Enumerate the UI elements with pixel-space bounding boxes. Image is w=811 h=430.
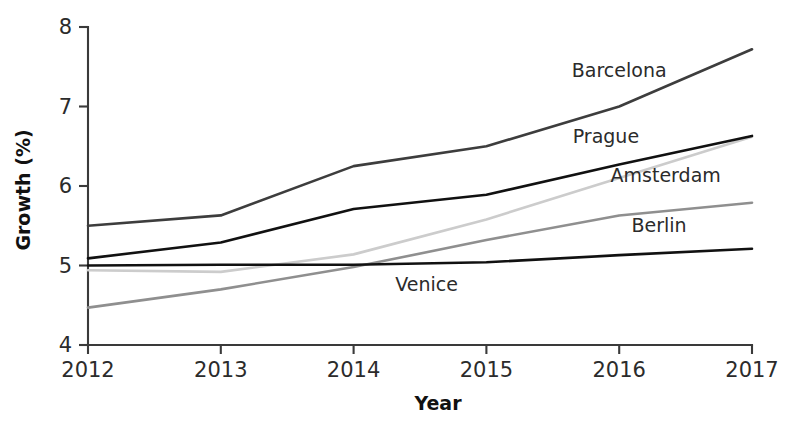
x-tick-label: 2014 bbox=[327, 358, 380, 382]
series-label-venice: Venice bbox=[395, 273, 458, 295]
series-line-prague bbox=[88, 136, 752, 258]
y-tick-label: 8 bbox=[59, 15, 72, 39]
y-axis-tick-labels: 45678 bbox=[59, 15, 72, 357]
x-tick-label: 2015 bbox=[460, 358, 513, 382]
series-label-berlin: Berlin bbox=[631, 214, 686, 236]
y-axis-ticks bbox=[79, 27, 88, 345]
x-axis-ticks bbox=[88, 345, 752, 354]
x-tick-label: 2013 bbox=[194, 358, 247, 382]
x-tick-label: 2012 bbox=[61, 358, 114, 382]
y-tick-label: 5 bbox=[59, 254, 72, 278]
series-label-prague: Prague bbox=[573, 125, 639, 147]
x-tick-label: 2016 bbox=[592, 358, 645, 382]
series-label-amsterdam: Amsterdam bbox=[611, 164, 721, 186]
chart-canvas: 45678 201220132014201520162017 Barcelona… bbox=[0, 0, 811, 430]
line-chart: 45678 201220132014201520162017 Barcelona… bbox=[0, 0, 811, 430]
y-axis-title: Growth (%) bbox=[12, 129, 34, 250]
y-tick-label: 6 bbox=[59, 174, 72, 198]
y-tick-label: 7 bbox=[59, 95, 72, 119]
y-tick-label: 4 bbox=[59, 333, 72, 357]
series-line-venice bbox=[88, 249, 752, 266]
x-axis-tick-labels: 201220132014201520162017 bbox=[61, 358, 778, 382]
series-label-barcelona: Barcelona bbox=[572, 59, 667, 81]
x-tick-label: 2017 bbox=[725, 358, 778, 382]
x-axis-title: Year bbox=[413, 392, 462, 414]
